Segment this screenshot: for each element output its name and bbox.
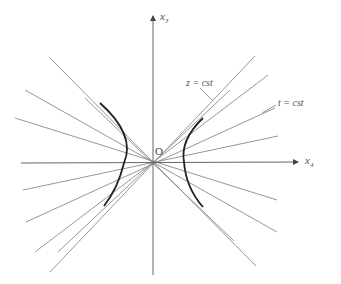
z-const-leader bbox=[200, 88, 213, 101]
x3-axis-label: x3 bbox=[159, 10, 169, 25]
x4-axis bbox=[21, 162, 298, 163]
x4-axis-label: x4 bbox=[304, 154, 314, 169]
origin-label: O bbox=[155, 145, 163, 157]
radial-lines bbox=[15, 56, 278, 272]
z-const-label: z = cst bbox=[185, 77, 213, 88]
hyperbola-diagram: x3 x4 O z = cst t = cst bbox=[0, 0, 341, 284]
t-const-label: t = cst bbox=[278, 97, 304, 108]
t-const-leader bbox=[262, 105, 276, 113]
